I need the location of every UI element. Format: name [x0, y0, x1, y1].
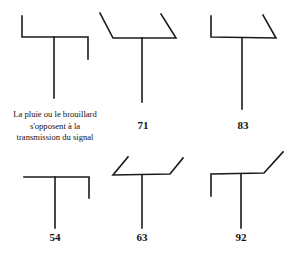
caption-line-1: La pluie ou le brouillard [0, 109, 110, 121]
label-63: 63 [122, 231, 162, 243]
symbol-63 [113, 157, 183, 228]
symbol-83 [211, 15, 276, 109]
symbol-caption: La pluie ou le brouillard s'opposent à l… [0, 109, 110, 144]
symbol-71 [100, 13, 176, 102]
label-83: 83 [223, 119, 263, 131]
symbol-92 [211, 152, 283, 228]
label-71: 71 [123, 119, 163, 131]
label-54: 54 [35, 231, 75, 243]
symbol-1 [22, 16, 88, 98]
caption-line-3: transmission du signal [0, 132, 110, 144]
label-92: 92 [221, 231, 261, 243]
caption-line-2: s'opposent à la [0, 121, 110, 133]
symbol-54 [24, 177, 89, 228]
